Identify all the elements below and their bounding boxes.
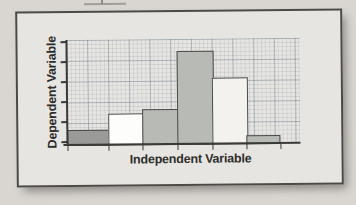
bar-4 xyxy=(177,51,214,145)
bars-layer xyxy=(17,10,340,13)
scanned-page: Dependent Variable Independent Variable xyxy=(0,0,356,205)
x-axis-label: Independent Variable xyxy=(130,151,252,166)
bar-3 xyxy=(142,109,179,145)
y-axis-label: Dependent Variable xyxy=(44,36,59,149)
ticks-layer xyxy=(17,10,340,13)
bar-2 xyxy=(108,113,144,145)
bar-5 xyxy=(212,77,248,144)
figure-card: Dependent Variable Independent Variable xyxy=(15,8,344,187)
scan-artifact xyxy=(101,0,103,4)
scan-artifact xyxy=(84,3,126,5)
